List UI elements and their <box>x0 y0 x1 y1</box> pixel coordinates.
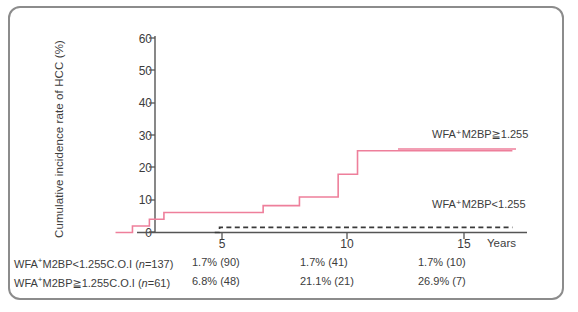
row-label-high: WFA+M2BP≧1.255C.O.I (n=61) <box>14 275 170 290</box>
row1-prefix: WFA <box>14 277 38 289</box>
curve-wfa-m2bp-high <box>116 151 513 233</box>
row-label-low: WFA+M2BP<1.255C.O.I (n=137) <box>14 256 173 270</box>
y-tick-marks <box>149 38 155 232</box>
table-row: WFA+M2BP<1.255C.O.I (n=137) 1.7% (90) 1.… <box>14 256 566 275</box>
row1-value-5yr: 6.8% (48) <box>192 275 240 287</box>
curve-wfa-m2bp-low <box>215 227 513 232</box>
row0-value-10yr: 1.7% (41) <box>300 256 348 268</box>
row0-prefix: WFA <box>14 258 38 270</box>
row1-value-15yr: 26.9% (7) <box>418 275 466 287</box>
row0-value-15yr: 1.7% (10) <box>418 256 466 268</box>
row0-nval: =137) <box>145 258 173 270</box>
row1-main: M2BP≧1.255C.O.I ( <box>43 277 142 289</box>
row1-nval: =61) <box>148 277 170 289</box>
row0-value-5yr: 1.7% (90) <box>192 256 240 268</box>
row1-value-10yr: 21.1% (21) <box>300 275 354 287</box>
risk-table: WFA+M2BP<1.255C.O.I (n=137) 1.7% (90) 1.… <box>14 256 566 294</box>
row0-main: M2BP<1.255C.O.I ( <box>43 258 139 270</box>
table-row: WFA+M2BP≧1.255C.O.I (n=61) 6.8% (48) 21.… <box>14 275 566 294</box>
